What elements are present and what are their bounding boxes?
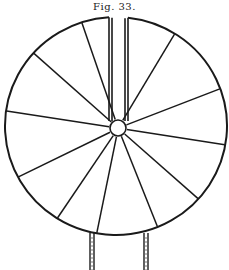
- hub: [110, 120, 126, 136]
- spoke: [125, 134, 198, 199]
- wheel-diagram: [0, 0, 229, 270]
- spoke: [18, 132, 110, 177]
- spoke: [34, 53, 111, 122]
- spoke: [126, 89, 219, 125]
- spoke: [82, 23, 115, 120]
- spoke: [7, 111, 109, 127]
- spoke: [57, 136, 113, 218]
- wheel: [5, 17, 227, 270]
- wheel-rim: [5, 17, 227, 235]
- spoke: [127, 130, 225, 145]
- spoke: [97, 137, 117, 233]
- spoke: [121, 136, 157, 226]
- spoke: [123, 34, 175, 120]
